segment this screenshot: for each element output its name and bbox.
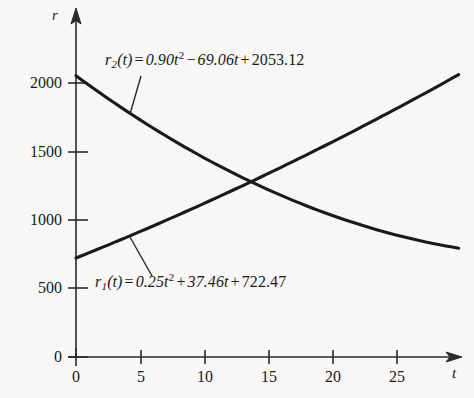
eq-r2-quadratic-term: 0.90t bbox=[146, 51, 179, 68]
eq-r1-name: r bbox=[95, 273, 101, 290]
eq-r1-constant-term: 722.47 bbox=[242, 273, 287, 290]
eq-r2-exponent: 2 bbox=[179, 49, 185, 61]
y-tick-label-2000: 2000 bbox=[10, 75, 62, 91]
eq-r1-equals: = bbox=[125, 273, 134, 290]
equation-label-r2: r2(t)=0.90t2−69.06t+2053.12 bbox=[105, 50, 304, 70]
eq-r1-quadratic-term: 0.25t bbox=[136, 273, 169, 290]
x-tick-label-5: 5 bbox=[121, 369, 161, 385]
x-tick-label-10: 10 bbox=[185, 369, 225, 385]
eq-r2-linear-term: 69.06t bbox=[198, 51, 239, 68]
eq-r1-argument: (t) bbox=[107, 273, 122, 290]
y-axis bbox=[71, 8, 81, 358]
leader-line-r2 bbox=[130, 76, 141, 114]
y-tick-marks bbox=[68, 83, 88, 357]
x-tick-label-15: 15 bbox=[249, 369, 289, 385]
y-axis-name: r bbox=[52, 8, 58, 23]
eq-r2-equals: = bbox=[135, 51, 144, 68]
x-tick-label-25: 25 bbox=[377, 369, 417, 385]
x-axis-name: t bbox=[452, 366, 456, 381]
equation-label-r1: r1(t)=0.25t2+37.46t+722.47 bbox=[95, 272, 286, 292]
eq-r1-operator-1: + bbox=[176, 273, 185, 290]
eq-r1-linear-term: 37.46t bbox=[188, 273, 229, 290]
y-tick-label-1000: 1000 bbox=[10, 212, 62, 228]
y-tick-label-0: 0 bbox=[10, 349, 62, 365]
eq-r2-constant-term: 2053.12 bbox=[252, 51, 305, 68]
y-tick-label-1500: 1500 bbox=[10, 144, 62, 160]
eq-r2-operator-2: + bbox=[241, 51, 250, 68]
eq-r1-exponent: 2 bbox=[169, 271, 175, 283]
x-tick-label-0: 0 bbox=[56, 369, 96, 385]
eq-r2-operator-1: − bbox=[186, 51, 195, 68]
x-tick-label-20: 20 bbox=[313, 369, 353, 385]
quadratic-revenue-graph: r t 0 500 1000 1500 2000 0 5 10 15 20 25… bbox=[0, 0, 474, 398]
eq-r1-operator-2: + bbox=[231, 273, 240, 290]
y-tick-label-500: 500 bbox=[10, 280, 62, 296]
x-axis bbox=[68, 352, 462, 362]
eq-r2-name: r bbox=[105, 51, 111, 68]
leader-line-r1 bbox=[130, 237, 152, 276]
eq-r2-argument: (t) bbox=[117, 51, 132, 68]
